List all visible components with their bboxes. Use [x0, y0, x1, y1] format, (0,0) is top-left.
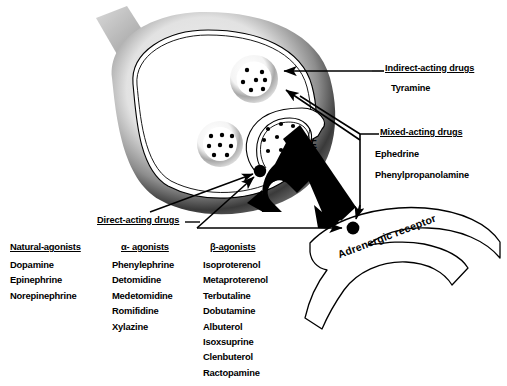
indirect-acting-item-0: Tyramine [391, 84, 430, 94]
drug-item: Isoxsuprine [203, 336, 268, 347]
drug-item: Albuterol [203, 321, 268, 332]
column-heading: α- agonists [121, 241, 169, 252]
drug-item: Isoproterenol [203, 259, 268, 270]
column-heading: Natural-agonists [10, 241, 81, 252]
drug-column-beta-agonists: β-agonists Isoproterenol Metaproterenol … [203, 236, 268, 382]
drug-item: Medetomidine [112, 290, 174, 301]
direct-acting-heading: Direct-acting drugs [97, 216, 179, 226]
drug-item: Xylazine [112, 321, 174, 332]
drug-column-natural-agonists: Natural-agonists Dopamine Epinephrine No… [10, 236, 81, 305]
indirect-acting-heading: Indirect-acting drugs [385, 64, 474, 74]
mixed-acting-heading: Mixed-acting drugs [380, 128, 462, 138]
column-heading: β-agonists [210, 241, 255, 252]
vesicle-upper [230, 55, 278, 103]
drug-item: Romifidine [112, 305, 174, 316]
drug-item: Epinephrine [10, 274, 81, 285]
drug-item: Terbutaline [203, 290, 268, 301]
ne-release-site-dot [254, 165, 266, 177]
drug-item: Metaproterenol [203, 274, 268, 285]
figure-canvas: NE Indirect-acting drugs Tyramine Mixed-… [0, 0, 507, 386]
drug-item: Dopamine [10, 259, 81, 270]
drug-item: Norepinephrine [10, 290, 81, 301]
mixed-acting-item-1: Phenylpropanolamine [375, 171, 469, 181]
drug-item: Dobutamine [203, 305, 268, 316]
mixed-acting-item-0: Ephedrine [375, 150, 419, 160]
drug-column-alpha-agonists: α- agonists Phenylephrine Detomidine Med… [112, 236, 174, 336]
drug-item: Clenbuterol [203, 351, 268, 362]
drug-item: Detomidine [112, 274, 174, 285]
drug-item: Ractopamine [203, 367, 268, 378]
vesicle-lower [197, 121, 243, 167]
drug-item: Phenylephrine [112, 259, 174, 270]
receptor-binding-dot [347, 222, 360, 235]
ne-label: NE [303, 140, 317, 151]
